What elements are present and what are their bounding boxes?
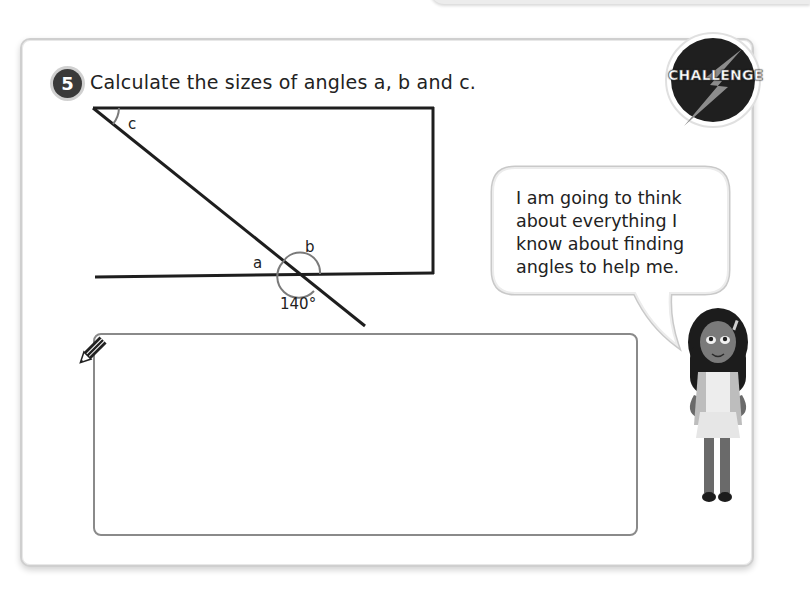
- challenge-label: CHALLENGE: [668, 67, 760, 83]
- girl-character-illustration: [680, 300, 760, 505]
- speech-bubble-text: I am going to think about everything I k…: [516, 187, 726, 279]
